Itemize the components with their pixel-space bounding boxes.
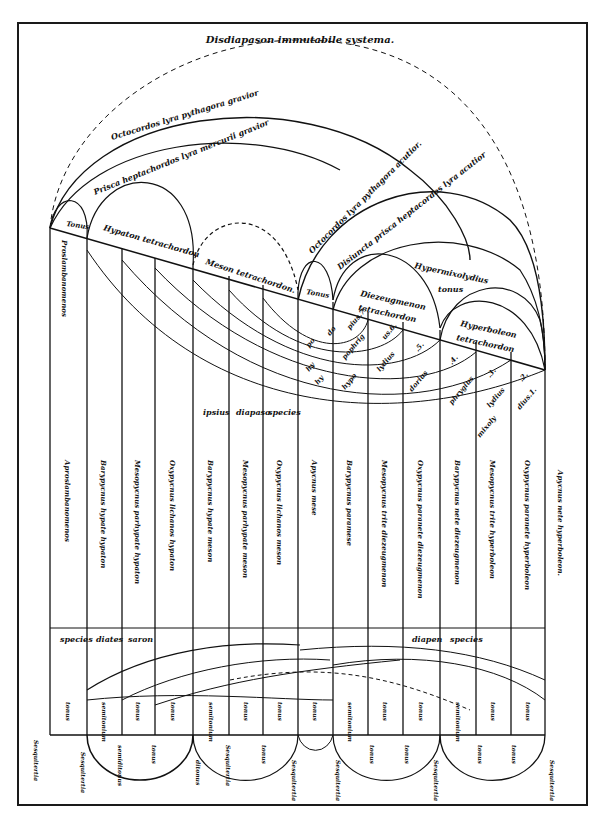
column-label: Barypycnus nete diezeugmenon — [453, 459, 462, 585]
mode-label: do — [325, 324, 338, 337]
column-label: Barypycnus paramese — [345, 459, 354, 546]
bottom-label-tonus-2: tonus — [261, 745, 268, 764]
mode-label: mixoly — [475, 413, 499, 439]
bottom-label-sesquitertia-7: Sesquitertia — [548, 760, 556, 801]
species-diapason: diapaso — [236, 407, 271, 417]
interval-label: tonus — [65, 702, 72, 721]
column-label: Oxypycnus lichanos meson — [275, 460, 284, 565]
species-species: species — [268, 407, 301, 417]
column-label: Mesopycnus trite hyperboleon — [488, 459, 497, 579]
interval-label: tonus — [170, 702, 177, 721]
bottom-label-tonus-6: tonus — [511, 745, 518, 764]
mode-label: lydius — [375, 350, 397, 374]
mode-label: hy — [313, 373, 326, 387]
mode-label: .3. — [485, 366, 498, 379]
column-label: Mesopycnus parhypate meson — [241, 459, 250, 578]
interval-label: semitonium — [455, 702, 462, 742]
band-header-diates: diates — [96, 634, 124, 644]
bottom-label-sesquitertia-1: Sesquitertia — [32, 740, 40, 781]
species-ipsius: ipsius — [203, 407, 230, 417]
column-label: Barypycnus hypate hypaton — [99, 459, 108, 568]
interval-label: semitonium — [347, 702, 354, 742]
hypermixolydius-tonus-label: tonus — [438, 284, 464, 294]
interval-label: tonus — [135, 702, 142, 721]
tonus-mid-label: Tonus — [306, 287, 330, 300]
band-header-species-right: species — [450, 634, 483, 644]
mode-label: phrygius — [447, 374, 476, 406]
bottom-label-sesquitertia-3: Sesquitertia — [224, 745, 232, 786]
species-curve-2 — [122, 659, 330, 700]
bottom-label-sesquitertia-2: Sesquitertia — [79, 752, 87, 793]
mode-label: .2. — [517, 370, 530, 383]
bottom-label-tonus-1: tonus — [151, 745, 158, 764]
mode-label: dorius — [407, 368, 430, 393]
interval-label: tonus — [418, 702, 425, 721]
interval-label: tonus — [243, 702, 250, 721]
band-header-diapen: diapen — [412, 634, 443, 644]
interval-label: tonus — [312, 702, 319, 721]
bottom-label-sesquitertia-4: Sesquitertia — [290, 760, 298, 801]
bottom-label-semiditonus: semiditonus — [117, 745, 124, 787]
mode-label: hypo — [340, 371, 359, 391]
interval-label: semitonium — [208, 702, 215, 742]
bottom-arc-3 — [298, 735, 333, 750]
mode-label: hy — [304, 360, 317, 374]
octochord-acute-label: Octocordos lyra pythagora acutior. — [306, 138, 423, 255]
interval-label: tonus — [490, 702, 497, 721]
bottom-label-tonus-3: tonus — [369, 745, 376, 764]
bottom-label-tonus-5: tonus — [477, 745, 484, 764]
diagram-canvas: Disdiapason immutabile systema. Octocord… — [0, 0, 608, 824]
mode-labels: hypodopius.7.hyhypopophrigus.6.lydius.5.… — [304, 305, 539, 439]
column-label: Mesopycnus trite diezeugmenon — [380, 459, 389, 587]
bottom-label-sesquitertia-5: Sesquitertia — [334, 760, 342, 801]
column-label: Mesopycnus parhypate hypaton — [133, 459, 142, 584]
bottom-label-tonus-4: tonus — [404, 745, 411, 764]
tonus-left-label: Tonus — [66, 219, 90, 231]
diagram-title: Disdiapason immutabile systema. — [205, 34, 394, 45]
column-label: Oxypycnus paranete hyperboleon — [523, 460, 532, 590]
band-header-species: species — [60, 634, 93, 644]
column-label-last: Apycnus nete hyperboleon. — [556, 469, 565, 576]
bottom-label-sesquitertia-6: Sesquitertia — [432, 760, 440, 801]
mode-label: pophrig — [340, 332, 367, 361]
column-label: Apycnus mese — [310, 459, 319, 516]
band-header-saron: saron — [128, 634, 153, 644]
interval-label: tonus — [277, 702, 284, 721]
column-label: Oxypycnus lichanos hypaton — [168, 460, 177, 571]
bottom-label-ditonus-1: ditonus — [195, 760, 202, 786]
interval-label: semitonium — [101, 702, 108, 742]
proslambanomenos-top-label: Proslambanomenos — [60, 239, 69, 317]
column-label: Barypycnus hypate meson — [206, 459, 215, 562]
interval-label: tonus — [525, 702, 532, 721]
mode-label: dius.1. — [515, 385, 539, 411]
hypaton-label: Hypaton tetrachordon — [101, 222, 201, 259]
mode-label: .5. — [413, 340, 426, 353]
column-label: Aproslambanomenos — [63, 459, 72, 542]
interval-label: tonus — [382, 702, 389, 721]
species-curve-6 — [333, 659, 545, 700]
column-label: Oxypycnus paranete diezeugmenon — [416, 460, 425, 599]
mode-curve-3 — [155, 268, 476, 379]
mode-curve-2 — [122, 260, 511, 394]
species-curve-5 — [300, 646, 545, 680]
